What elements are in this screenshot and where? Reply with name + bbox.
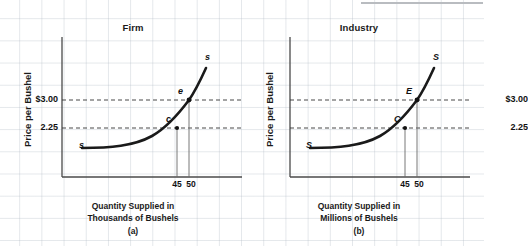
data-point-c-firm [175,126,179,130]
x-tick-label-50-firm: 50 [181,179,201,189]
panel-letter-a: (a) [0,226,242,236]
curve-label-s-firm: s [79,140,84,150]
supply-curve-industry [310,68,434,148]
caption-line-1-firm: Quantity Supplied in [92,201,175,211]
data-point-c-industry [403,126,407,130]
data-point-e-firm [187,98,192,103]
y-tick-label-2-25-firm: 2.25 [8,122,58,132]
point-label-e-industry: E [406,86,412,96]
chart-panel-industry: Industry Price per Bushel $3.00 2.25 45 … [242,0,484,246]
curve-end-label-s-firm: s [205,52,210,62]
y-axis-label-industry: Price per Bushel [264,55,275,165]
caption-line-2-industry: Millions of Bushels [242,213,484,225]
y-axis-label-firm: Price per Bushel [22,55,33,165]
y-tick-label-3-00-firm: $3.00 [8,94,58,104]
x-tick-label-50-industry: 50 [409,179,429,189]
x-axis-caption-industry: Quantity Supplied in Millions of Bushels [242,201,484,224]
y-tick-label-3-00-industry: $3.00 [478,94,528,104]
chart-panel-firm: Firm Price per Bushel $3.00 2.25 45 50 [0,0,242,246]
data-point-e-industry [415,98,420,103]
caption-line-2-firm: Thousands of Bushels [0,213,242,225]
supply-curve-firm [82,68,206,148]
point-label-c-firm: c [166,114,171,124]
panel-letter-b: (b) [242,226,484,236]
point-label-e-firm: e [178,86,183,96]
x-axis-caption-firm: Quantity Supplied in Thousands of Bushel… [0,201,242,224]
caption-line-1-industry: Quantity Supplied in [318,201,401,211]
point-label-c-industry: C [394,114,401,124]
curve-end-label-s-industry: S [433,52,439,62]
y-tick-label-2-25-industry: 2.25 [478,122,528,132]
curve-label-s-industry: S [306,140,312,150]
